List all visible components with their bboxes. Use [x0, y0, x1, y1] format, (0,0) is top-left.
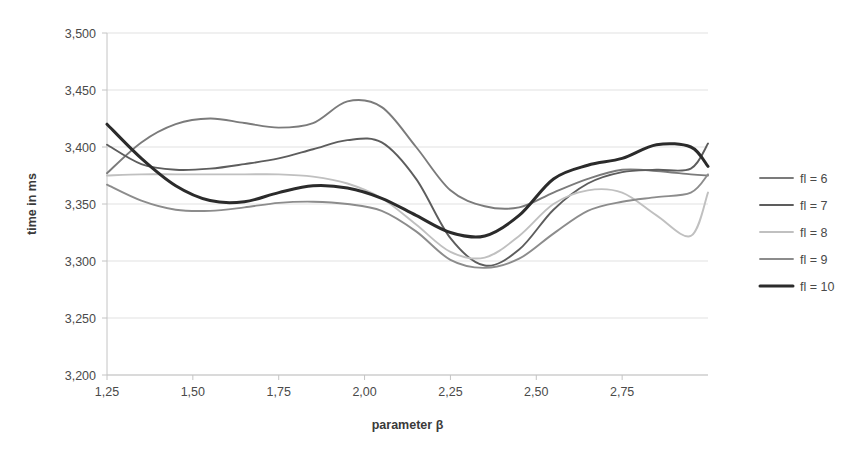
y-axis-tick-label: 3,500	[65, 27, 96, 41]
chart-canvas: 3,5003,4503,4003,3503,3003,2503,200 1,25…	[0, 0, 863, 454]
y-axis-tick-label: 3,250	[65, 312, 96, 326]
x-axis-tick-label: 2,50	[524, 385, 548, 399]
data-series	[107, 100, 708, 268]
y-axis-tick-label: 3,450	[65, 84, 96, 98]
x-axis-tick-label: 1,75	[267, 385, 291, 399]
x-axis-tick-label: 2,25	[438, 385, 462, 399]
line-chart: 3,5003,4503,4003,3503,3003,2503,200 1,25…	[0, 0, 863, 454]
x-axis-tick-label: 1,25	[95, 385, 119, 399]
x-axis-tick-labels: 1,251,501,752,002,252,502,75	[95, 385, 635, 399]
y-axis-tick-label: 3,300	[65, 255, 96, 269]
x-axis-tick-label: 2,75	[610, 385, 634, 399]
y-axis-title: time in ms	[25, 173, 39, 235]
y-axis-tick-labels: 3,5003,4503,4003,3503,3003,2503,200	[65, 27, 96, 383]
x-axis-tick-label: 1,50	[181, 385, 205, 399]
legend: fl = 6fl = 7fl = 8fl = 9fl = 10	[760, 172, 834, 294]
x-axis-tick-label: 2,00	[352, 385, 376, 399]
legend-label: fl = 10	[800, 280, 834, 294]
legend-label: fl = 9	[800, 253, 827, 267]
series-line-fl-10	[107, 124, 708, 237]
series-line-fl-8	[107, 174, 708, 258]
legend-label: fl = 8	[800, 226, 827, 240]
legend-label: fl = 6	[800, 172, 827, 186]
y-axis-tick-label: 3,350	[65, 198, 96, 212]
y-axis-tick-label: 3,400	[65, 141, 96, 155]
x-axis-title: parameter β	[372, 418, 444, 432]
y-axis-tick-label: 3,200	[65, 369, 96, 383]
legend-label: fl = 7	[800, 199, 827, 213]
gridlines	[107, 33, 708, 375]
axes	[102, 33, 708, 380]
series-line-fl-9	[107, 174, 708, 267]
series-line-fl-6	[107, 100, 708, 209]
